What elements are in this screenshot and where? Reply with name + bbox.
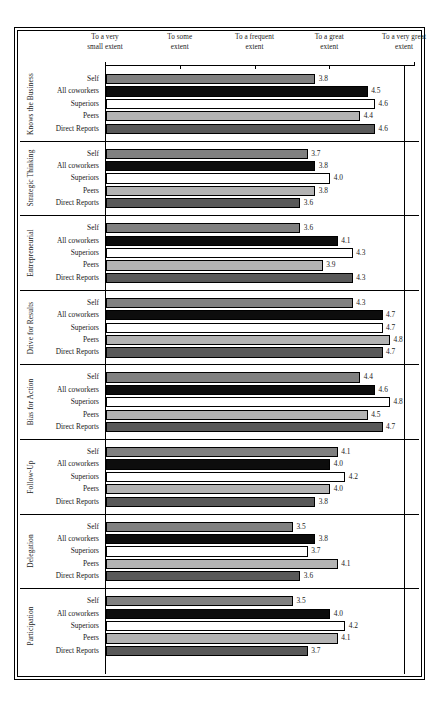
group-label: Delegation [26, 535, 35, 568]
bar [106, 173, 330, 183]
bar-track: 4.1 [106, 558, 419, 570]
bar-value-label: 4.7 [383, 421, 396, 433]
bar-value-label: 4.0 [330, 483, 343, 495]
bar-track: 4.4 [106, 110, 419, 122]
group-label-cell: Drive for Results [20, 291, 40, 365]
bar [106, 459, 330, 469]
rater-label: Superiors [40, 396, 102, 408]
bar-value-label: 4.2 [345, 471, 358, 483]
bar-track: 4.8 [106, 334, 419, 346]
group-label: Bias for Action [26, 379, 35, 426]
x-axis-header: To a verysmall extentTo someextentTo a f… [20, 33, 419, 71]
bar [106, 397, 390, 407]
rater-label: Self [40, 521, 102, 533]
bar-track: 4.8 [106, 396, 419, 408]
bar [106, 236, 338, 246]
chart-plot-area: To a verysmall extentTo someextentTo a f… [20, 33, 419, 674]
rater-label: All coworkers [40, 384, 102, 396]
bar-row: Direct Reports4.7 [40, 421, 419, 433]
group-label: Drive for Results [26, 301, 35, 354]
bar-value-label: 3.8 [315, 160, 328, 172]
bar-track: 3.9 [106, 259, 419, 271]
bar-track: 4.0 [106, 608, 419, 620]
bar-track: 3.8 [106, 496, 419, 508]
bar-value-label: 4.8 [390, 396, 403, 408]
bar [106, 86, 368, 96]
rater-label: Peers [40, 185, 102, 197]
x-axis-tick-label: To someextent [147, 33, 213, 52]
rater-label: Peers [40, 483, 102, 495]
bar-track: 3.8 [106, 533, 419, 545]
bar-row: All coworkers3.8 [40, 533, 419, 545]
rater-label: Peers [40, 334, 102, 346]
rater-label: Direct Reports [40, 421, 102, 433]
bar [106, 497, 315, 507]
bar-row: Superiors4.2 [40, 620, 419, 632]
bar [106, 74, 315, 84]
bar-row: Peers4.1 [40, 558, 419, 570]
bar-track: 3.8 [106, 73, 419, 85]
bar [106, 546, 308, 556]
bar-value-label: 4.7 [383, 322, 396, 334]
bar-row: Peers4.4 [40, 110, 419, 122]
rater-label: Superiors [40, 98, 102, 110]
bar-row: Superiors3.7 [40, 545, 419, 557]
bar-row: Superiors4.2 [40, 471, 419, 483]
bar-track: 4.3 [106, 247, 419, 259]
group-label-cell: Delegation [20, 515, 40, 589]
rater-label: Self [40, 371, 102, 383]
bar-track: 4.3 [106, 297, 419, 309]
bar-track: 4.2 [106, 620, 419, 632]
bar-value-label: 4.4 [360, 110, 373, 122]
bar-row: Peers3.8 [40, 185, 419, 197]
bar [106, 422, 383, 432]
bar-row: Direct Reports4.3 [40, 272, 419, 284]
bar-row: Direct Reports4.7 [40, 346, 419, 358]
bar-row: All coworkers3.8 [40, 160, 419, 172]
bar-value-label: 3.9 [323, 259, 336, 271]
bar-row: Superiors4.7 [40, 322, 419, 334]
group-rows: Self4.1All coworkers4.0Superiors4.2Peers… [40, 446, 419, 508]
rater-label: All coworkers [40, 458, 102, 470]
competency-group: DelegationSelf3.5All coworkers3.8Superio… [20, 515, 419, 590]
bar-value-label: 4.8 [390, 334, 403, 346]
group-rows: Self4.3All coworkers4.7Superiors4.7Peers… [40, 297, 419, 359]
rater-label: Self [40, 222, 102, 234]
bar-row: Peers4.0 [40, 483, 419, 495]
rater-label: Peers [40, 558, 102, 570]
group-label: Follow-Up [26, 460, 35, 493]
bar [106, 559, 338, 569]
group-label: Knows the Business [26, 73, 35, 135]
bar-track: 4.7 [106, 346, 419, 358]
competency-group: EntrepreneurialSelf3.6All coworkers4.1Su… [20, 216, 419, 291]
bar-row: All coworkers4.6 [40, 384, 419, 396]
bar-track: 3.6 [106, 570, 419, 582]
bar [106, 385, 375, 395]
bar-row: Direct Reports4.6 [40, 123, 419, 135]
rater-label: Peers [40, 409, 102, 421]
bar [106, 621, 345, 631]
bar-value-label: 3.6 [300, 197, 313, 209]
bar-value-label: 3.5 [293, 521, 306, 533]
bar-value-label: 3.8 [315, 533, 328, 545]
bar-value-label: 4.6 [375, 384, 388, 396]
bar-row: Self4.3 [40, 297, 419, 309]
bar-row: Self3.5 [40, 521, 419, 533]
x-axis-tick-label: To a frequentextent [222, 33, 288, 52]
rater-label: Peers [40, 632, 102, 644]
group-label: Entrepreneurial [26, 229, 35, 276]
competency-group: Strategic ThinkingSelf3.7All coworkers3.… [20, 142, 419, 217]
rater-label: All coworkers [40, 160, 102, 172]
bar-track: 3.6 [106, 222, 419, 234]
bar-row: Superiors4.6 [40, 98, 419, 110]
bar-track: 4.4 [106, 371, 419, 383]
rater-label: Direct Reports [40, 570, 102, 582]
bar-track: 4.7 [106, 322, 419, 334]
bar [106, 335, 390, 345]
bar-value-label: 4.1 [338, 446, 351, 458]
bar-value-label: 4.4 [360, 371, 373, 383]
bar-row: Peers4.8 [40, 334, 419, 346]
rater-label: Self [40, 446, 102, 458]
bar-row: All coworkers4.7 [40, 309, 419, 321]
bar-value-label: 4.0 [330, 172, 343, 184]
